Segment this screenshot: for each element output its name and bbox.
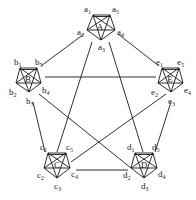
node-label-e1: e1 — [156, 57, 163, 68]
node-label-c2: c2 — [37, 170, 44, 181]
node-label-d3: d3 — [141, 181, 149, 192]
edge-b4-d2 — [39, 94, 131, 168]
node-label-b3: b3 — [26, 96, 34, 107]
node-label-e5: e5 — [177, 57, 184, 68]
edge-a3-d1 — [109, 42, 143, 152]
node-label-e4: e4 — [184, 85, 191, 96]
cluster-center-label: E — [167, 74, 173, 84]
node-label-c4: c4 — [71, 169, 78, 180]
node-label-e2: e2 — [151, 87, 158, 98]
node-label-d5: d5 — [152, 142, 160, 153]
edge-a4-e1 — [118, 34, 159, 66]
cluster-center-label: D — [141, 160, 148, 170]
node-label-a1: a1 — [84, 4, 91, 15]
cluster-center-label: C — [54, 160, 60, 170]
node-label-b5: b5 — [35, 57, 43, 68]
inter-cluster-edges — [33, 34, 171, 170]
node-label-d1: d1 — [127, 142, 135, 153]
node-label-a2: a2 — [77, 27, 84, 38]
node-label-c5: c5 — [66, 142, 73, 153]
node-label-d4: d4 — [158, 169, 166, 180]
node-label-b4: b4 — [42, 85, 50, 96]
node-label-a3: a3 — [98, 42, 105, 53]
node-label-b1: b1 — [14, 57, 22, 68]
edge-a3-c1 — [57, 42, 92, 152]
node-label-e3: e3 — [168, 96, 175, 107]
cluster-center-label: B — [25, 74, 31, 84]
node-label-b2: b2 — [9, 87, 17, 98]
k5-cluster-network-diagram: Aa1a5a4a3a2Bb1b5b4b3b2Ee1e5e4e3e2Cc1c5c4… — [0, 0, 196, 200]
node-label-c3: c3 — [54, 181, 61, 192]
cluster-e: Ee1e5e4e3e2 — [151, 57, 191, 107]
clusters: Aa1a5a4a3a2Bb1b5b4b3b2Ee1e5e4e3e2Cc1c5c4… — [9, 4, 191, 192]
node-label-a4: a4 — [117, 27, 124, 38]
edge-e3-d5 — [155, 102, 171, 152]
node-label-d2: d2 — [123, 170, 131, 181]
cluster-a: Aa1a5a4a3a2 — [77, 4, 124, 53]
cluster-center-label: A — [97, 22, 104, 32]
node-label-c1: c1 — [40, 142, 47, 153]
edge-a2-b5 — [41, 34, 84, 66]
diagram-canvas: Aa1a5a4a3a2Bb1b5b4b3b2Ee1e5e4e3e2Cc1c5c4… — [0, 0, 196, 200]
node-label-a5: a5 — [112, 4, 119, 15]
k5-edge-a5-a4 — [110, 15, 115, 30]
